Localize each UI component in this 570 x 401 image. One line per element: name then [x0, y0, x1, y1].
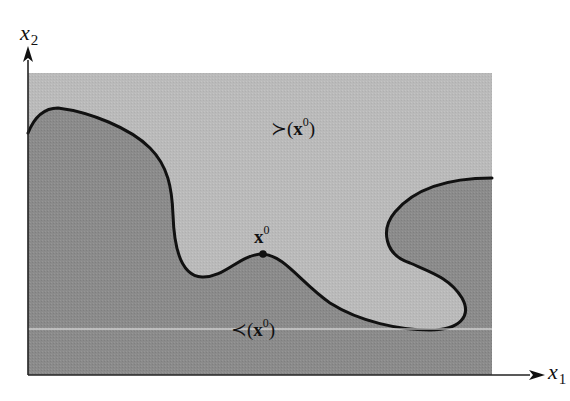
- lower-set-label: ≺(x0): [231, 317, 275, 339]
- y-axis-sub: 2: [31, 32, 39, 48]
- x-axis-arrow-icon: [529, 370, 545, 380]
- x-axis-sub: 1: [559, 371, 567, 387]
- y-axis-arrow-icon: [23, 46, 33, 62]
- upper-set-label: ≻(x0): [271, 116, 315, 138]
- close-paren: ): [269, 319, 275, 340]
- x-axis-var: x: [548, 359, 558, 384]
- prec-symbol: ≺: [231, 319, 247, 340]
- point-x0-label: x0: [254, 224, 270, 246]
- y-axis-label: x2: [20, 22, 38, 48]
- diagram-canvas: [0, 0, 570, 401]
- point-sup: 0: [264, 223, 270, 237]
- x-axis-label: x1: [548, 361, 566, 387]
- close-paren: ): [309, 118, 315, 139]
- upper-set-var: x: [293, 118, 303, 139]
- point-name: x: [254, 226, 264, 247]
- point-x0-marker: [259, 250, 267, 258]
- succ-symbol: ≻: [271, 118, 287, 139]
- y-axis-var: x: [20, 20, 30, 45]
- lower-set-var: x: [253, 319, 263, 340]
